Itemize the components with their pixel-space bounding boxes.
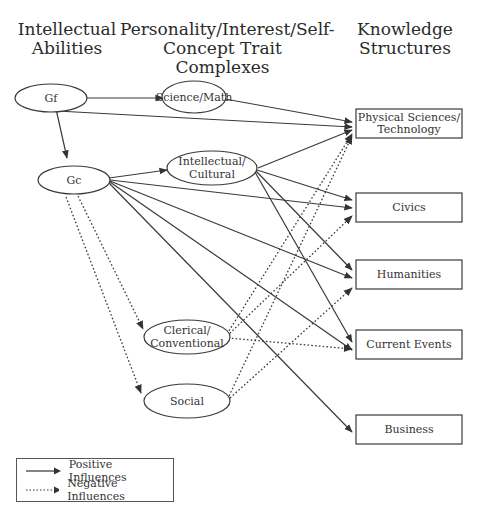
solid-arrow-icon xyxy=(25,466,61,476)
legend-negative: Negative Influences xyxy=(25,482,173,498)
edge-gc-clerical xyxy=(78,196,143,329)
edge-gc-current-events xyxy=(110,182,352,350)
edge-gf-gc xyxy=(56,109,67,158)
dotted-arrow-icon xyxy=(25,485,59,495)
label-physical-line2: Technology xyxy=(377,123,441,136)
edge-gc-social xyxy=(66,197,141,393)
label-gc: Gc xyxy=(67,174,82,187)
label-civics: Civics xyxy=(392,201,426,214)
edge-intellectual-physical xyxy=(258,130,352,168)
positive-edges xyxy=(56,98,352,432)
label-humanities: Humanities xyxy=(377,268,442,281)
edge-science-physical xyxy=(225,99,352,122)
label-intellectual-line1: Intellectual/ xyxy=(178,155,246,168)
label-current-events: Current Events xyxy=(366,338,452,351)
label-gf: Gf xyxy=(45,92,59,105)
influence-diagram: Gf Gc Science/Math Intellectual/ Cultura… xyxy=(0,0,480,507)
label-clerical-line2: Conventional xyxy=(150,337,224,350)
edge-gc-intellectual xyxy=(109,170,167,178)
edge-gc-humanities xyxy=(110,181,352,278)
label-clerical-line1: Clerical/ xyxy=(163,324,210,337)
edge-gc-business xyxy=(109,183,352,432)
edge-intellectual-civics xyxy=(257,170,352,200)
edge-social-humanities xyxy=(230,288,352,398)
legend-negative-label: Negative Influences xyxy=(67,477,173,503)
label-science-math: Science/Math xyxy=(156,91,233,104)
label-business: Business xyxy=(384,423,434,436)
edge-intellectual-humanities xyxy=(256,171,352,270)
label-social: Social xyxy=(170,395,204,408)
edge-gc-civics xyxy=(110,180,352,208)
legend: Positive Influences Negative Influences xyxy=(16,458,174,502)
label-intellectual-line2: Cultural xyxy=(189,168,235,181)
